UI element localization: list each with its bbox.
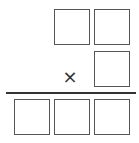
times-operator: ×: [62, 68, 78, 86]
result-line: [6, 92, 136, 94]
product-hundreds-box[interactable]: [14, 99, 50, 135]
product-ones-box[interactable]: [94, 99, 130, 135]
multiplicand-tens-box[interactable]: [54, 9, 90, 45]
product-tens-box[interactable]: [54, 99, 90, 135]
multiplicand-ones-box[interactable]: [94, 9, 130, 45]
multiplier-ones-box[interactable]: [94, 51, 130, 87]
